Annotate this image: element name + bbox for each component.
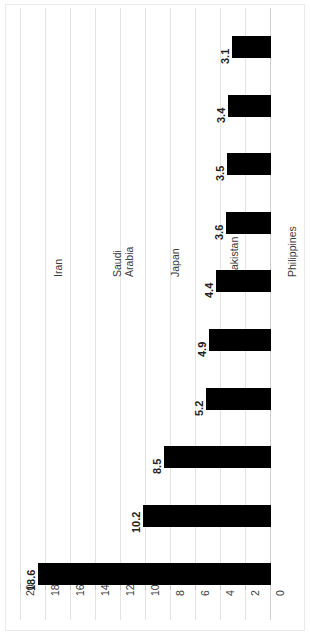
category-label-line: Saudi [111, 250, 123, 277]
gridline-16 [70, 8, 71, 620]
gridline-14 [95, 8, 96, 620]
bar-kenya[interactable] [209, 329, 270, 351]
axis-tick-label-12: 12 [125, 584, 137, 596]
gridline-4 [220, 8, 221, 620]
bar-european-union-eu[interactable] [164, 446, 270, 468]
data-label-japan: 3.5 [214, 166, 226, 181]
gridline-8 [170, 8, 171, 620]
axis-tick-label-2: 2 [250, 590, 262, 596]
gridline-6 [195, 8, 196, 620]
gridline-20 [20, 8, 21, 620]
axis-tick-label-18: 18 [50, 584, 62, 596]
gridline-10 [145, 8, 146, 620]
axis-tick-label-16: 16 [75, 584, 87, 596]
data-label-china: 10.2 [130, 511, 142, 532]
axis-tick-label-4: 4 [225, 590, 237, 596]
category-label-line: Iran [52, 258, 64, 276]
bar-iran[interactable] [232, 36, 271, 58]
bar-india[interactable] [38, 563, 271, 585]
data-label-european-union-eu: 8.5 [151, 459, 163, 474]
bar-china[interactable] [143, 505, 271, 527]
data-label-india: 18.6 [25, 570, 37, 591]
axis-tick-label-14: 14 [100, 584, 112, 596]
data-label-saudi-arabia: 3.4 [215, 107, 227, 122]
bar-pakistan[interactable] [226, 212, 271, 234]
category-label-line: Philippines [286, 226, 298, 277]
data-label-kenya: 4.9 [196, 342, 208, 357]
gridline-12 [120, 8, 121, 620]
bar-philippines[interactable] [216, 270, 271, 292]
data-label-philippines: 4.4 [203, 283, 215, 298]
data-label-pakistan: 3.6 [213, 225, 225, 240]
bar-chart-plot-area: 201816141210864203.1Iran3.4SaudiArabia3.… [0, 0, 310, 636]
data-label-t-rkiye: 5.2 [193, 400, 205, 415]
data-label-iran: 3.1 [219, 49, 231, 64]
bar-t-rkiye[interactable] [206, 388, 271, 410]
axis-tick-label-0: 0 [275, 590, 287, 596]
gridline-18 [45, 8, 46, 620]
category-label-line: Japan [169, 248, 181, 277]
axis-tick-label-8: 8 [175, 590, 187, 596]
axis-tick-label-6: 6 [200, 590, 212, 596]
bar-saudi-arabia[interactable] [228, 95, 271, 117]
bar-japan[interactable] [227, 153, 271, 175]
axis-tick-20 [20, 583, 21, 590]
axis-tick-label-10: 10 [150, 584, 162, 596]
chart-screenshot: 201816141210864203.1Iran3.4SaudiArabia3.… [0, 0, 310, 636]
